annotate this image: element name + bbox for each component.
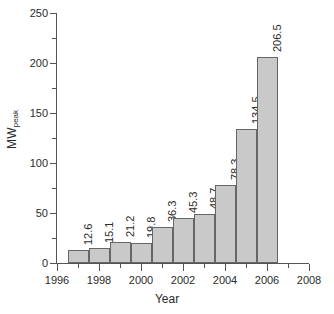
y-axis-title-subscript: peak [11,110,20,127]
y-axis-tick-label: 150 [30,108,48,119]
bar-chart-figure: MWpeak Year 050100150200250 199619982000… [0,0,334,314]
x-axis-tick-major [141,264,142,271]
x-axis-tick-major [309,264,310,271]
x-axis-tick-major [225,264,226,271]
x-axis-tick-label: 2004 [213,275,237,286]
y-axis-tick-major [50,263,56,264]
x-axis-tick-major [183,264,184,271]
y-axis-tick-minor [52,38,56,39]
y-axis-tick-label: 50 [36,208,48,219]
x-axis-tick-major [57,264,58,271]
x-axis-tick-minor [78,264,79,268]
y-axis-tick-major [50,113,56,114]
bar-value-label: 12.6 [83,224,94,245]
x-axis-tick-minor [204,264,205,268]
x-axis-tick-label: 1998 [87,275,111,286]
bar [194,214,215,263]
bar [110,242,131,263]
y-axis-tick-major [50,213,56,214]
x-axis-tick-label: 2006 [255,275,279,286]
bar [236,129,257,264]
bar-value-label: 15.1 [104,221,115,242]
x-axis-tick-label: 1996 [45,275,69,286]
y-axis-tick-major [50,163,56,164]
x-axis-tick-label: 2002 [171,275,195,286]
x-axis-tick-label: 2008 [297,275,321,286]
x-axis-tick-minor [162,264,163,268]
plot-area: 050100150200250 199619982000200220042006… [57,13,309,263]
x-axis-title: Year [0,292,334,306]
bar-value-label: 45.3 [188,191,199,212]
bar [152,227,173,263]
bar [173,218,194,263]
x-axis-tick-major [267,264,268,271]
y-axis-tick-label: 0 [42,258,48,269]
bar [257,57,278,264]
bar [215,185,236,263]
bar [89,248,110,263]
x-axis-tick-minor [120,264,121,268]
x-axis-tick-minor [288,264,289,268]
bar-value-label: 21.2 [125,215,136,236]
y-axis-title-main: MW [5,127,19,149]
y-axis-title: MWpeak [5,90,20,170]
y-axis-tick-minor [52,138,56,139]
y-axis-tick-minor [52,188,56,189]
y-axis-tick-label: 100 [30,158,48,169]
y-axis-tick-major [50,63,56,64]
bar [68,250,89,263]
y-axis-tick-minor [52,88,56,89]
x-axis-tick-label: 2000 [129,275,153,286]
x-axis-tick-major [99,264,100,271]
y-axis-tick-major [50,13,56,14]
x-axis-tick-minor [246,264,247,268]
y-axis-spine [56,13,57,264]
bar [131,243,152,263]
y-axis-tick-minor [52,238,56,239]
y-axis-tick-label: 250 [30,8,48,19]
bar-value-label: 206.5 [272,24,283,52]
y-axis-tick-label: 200 [30,58,48,69]
